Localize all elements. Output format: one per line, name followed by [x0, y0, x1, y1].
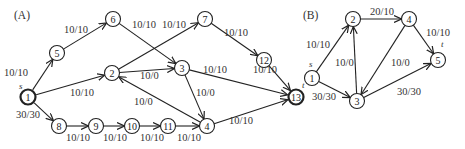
edge-a-1-to-5 [33, 60, 53, 90]
edge-label: 10/10 [177, 132, 201, 143]
node-a-13: 13t [289, 80, 306, 105]
node-label: 3 [180, 63, 185, 74]
node-label: 3 [355, 96, 360, 107]
node-b-1: 1s [305, 59, 320, 86]
source-tag: s [309, 59, 313, 69]
edge-b-3-to-2 [353, 27, 356, 94]
node-label: 10 [127, 121, 137, 132]
node-label: 12 [259, 55, 269, 66]
edge-label: 10/0 [391, 57, 410, 68]
node-label: 2 [110, 68, 115, 79]
edge-label: 10/10 [66, 132, 90, 143]
edge-label: 10/0 [335, 57, 354, 68]
edge-label: 10/10 [229, 115, 253, 126]
edge-label: 30/30 [397, 86, 421, 97]
node-a-6: 6 [106, 12, 121, 27]
node-a-9: 9 [89, 119, 104, 134]
source-tag: s [19, 81, 23, 91]
node-label: 4 [407, 14, 412, 25]
node-a-1: 1s [19, 81, 36, 105]
node-a-10: 10 [125, 119, 140, 134]
node-label: 6 [111, 14, 116, 25]
node-a-2: 2 [105, 66, 120, 81]
edge-label: 10/10 [140, 132, 164, 143]
edge-label: 10/0 [134, 96, 153, 107]
edge-label: 10/10 [162, 19, 186, 30]
node-a-12: 12 [257, 53, 272, 68]
node-a-7: 7 [198, 12, 213, 27]
edge-label: 10/10 [426, 27, 450, 38]
edge-label: 10/10 [103, 132, 127, 143]
node-a-3: 3 [175, 61, 190, 76]
node-label: 9 [94, 121, 99, 132]
node-a-8: 8 [52, 119, 67, 134]
edge-label: 10/0 [196, 87, 215, 98]
graph-a: (A)10/1010/1010/1010/1010/1010/010/1010/… [4, 9, 305, 143]
flow-network-diagram: (A)10/1010/1010/1010/1010/1010/010/1010/… [0, 0, 465, 149]
node-label: 13 [291, 92, 301, 103]
node-a-11: 11 [161, 119, 176, 134]
edge-label: 10/10 [203, 64, 227, 75]
node-a-4: 4 [200, 119, 215, 134]
node-a-5: 5 [50, 46, 65, 61]
edge-label: 10/10 [64, 24, 88, 35]
panel-label-b: (B) [303, 9, 319, 22]
panel-label-a: (A) [14, 9, 30, 22]
sink-tag: t [302, 80, 305, 90]
node-label: 8 [57, 121, 62, 132]
node-label: 11 [163, 121, 173, 132]
node-label: 5 [55, 48, 60, 59]
edge-label: 10/10 [132, 19, 156, 30]
graph-b: (B)10/1020/1010/1030/3010/010/030/301s24… [303, 6, 450, 109]
node-label: 1 [26, 92, 31, 103]
edge-label: 30/30 [16, 109, 40, 120]
node-b-4: 4 [402, 12, 417, 27]
edge-label: 10/10 [70, 87, 94, 98]
sink-tag: t [441, 39, 444, 49]
edge-label: 10/10 [4, 67, 28, 78]
node-b-2: 2 [346, 12, 361, 27]
node-label: 1 [310, 73, 315, 84]
node-b-3: 3 [350, 94, 365, 109]
edge-label: 10/10 [306, 39, 330, 50]
edge-label: 10/10 [224, 27, 248, 38]
edge-label: 30/30 [312, 91, 336, 102]
node-label: 4 [205, 121, 210, 132]
edge-label: 10/0 [140, 70, 159, 81]
node-label: 2 [351, 14, 356, 25]
node-label: 5 [436, 55, 441, 66]
edge-label: 20/10 [370, 6, 394, 17]
node-label: 7 [203, 14, 208, 25]
